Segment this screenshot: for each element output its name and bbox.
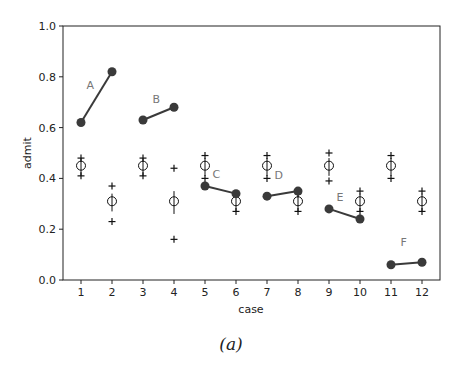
x-axis: 123456789101112 <box>78 280 430 299</box>
predicted-marker <box>108 183 117 226</box>
x-tick-label: 7 <box>264 286 271 299</box>
x-tick-label: 4 <box>171 286 178 299</box>
y-axis: 0.00.20.40.60.81.0 <box>39 20 64 287</box>
axes-frame <box>63 26 440 280</box>
x-tick-label: 1 <box>78 286 85 299</box>
observed-pair-a: A <box>77 67 117 127</box>
x-tick-label: 9 <box>326 286 333 299</box>
observed-pair-c: C <box>201 168 241 198</box>
pair-label: D <box>275 169 283 182</box>
y-tick-label: 0.4 <box>39 172 57 185</box>
predicted-marker <box>263 152 272 182</box>
pair-label: E <box>337 191 344 204</box>
y-tick-label: 0.0 <box>39 274 57 287</box>
x-tick-label: 10 <box>353 286 367 299</box>
x-tick-label: 12 <box>415 286 429 299</box>
x-tick-label: 3 <box>140 286 147 299</box>
pair-label: A <box>87 79 95 92</box>
figure-caption: (a) <box>0 334 462 354</box>
x-tick-label: 11 <box>384 286 398 299</box>
observed-pair-b: B <box>139 93 179 124</box>
x-tick-label: 2 <box>109 286 116 299</box>
pair-label: B <box>153 93 161 106</box>
x-tick-label: 8 <box>295 286 302 299</box>
plot-area: ABCDEF <box>77 67 427 269</box>
x-tick-label: 5 <box>202 286 209 299</box>
y-tick-label: 0.8 <box>39 71 57 84</box>
predicted-marker <box>170 165 179 243</box>
observed-pair-d: D <box>263 169 303 201</box>
predicted-marker <box>387 152 396 182</box>
predicted-marker <box>418 188 427 215</box>
y-tick-label: 0.6 <box>39 122 57 135</box>
x-axis-label: case <box>238 303 264 316</box>
y-tick-label: 0.2 <box>39 223 57 236</box>
observed-pair-f: F <box>387 236 427 269</box>
chart: ABCDEF 0.00.20.40.60.81.0 12345678910111… <box>0 0 462 330</box>
predicted-marker <box>356 188 365 215</box>
y-tick-label: 1.0 <box>39 20 57 33</box>
pair-label: C <box>213 168 221 181</box>
y-axis-label: admit <box>21 136 34 168</box>
predicted-marker <box>139 155 148 180</box>
observed-pair-e: E <box>325 191 365 224</box>
predicted-marker <box>77 155 86 180</box>
pair-label: F <box>401 236 407 249</box>
predicted-marker <box>325 150 334 185</box>
x-tick-label: 6 <box>233 286 240 299</box>
predicted-marker <box>201 152 210 182</box>
